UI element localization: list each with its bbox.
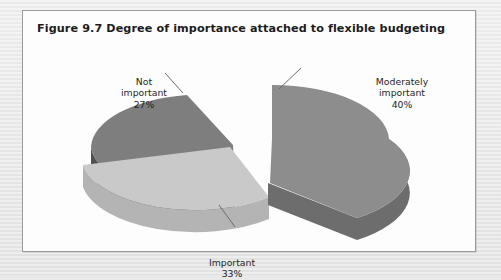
pie-label-not-important-line1: Not (107, 76, 181, 87)
pie-chart: Not important 27% Moderately important 4… (23, 35, 475, 251)
pie-label-moderately-important-line1: Moderately (355, 76, 449, 87)
pie-label-moderately-important-line2: important (355, 87, 449, 98)
pie-label-important-value: 33% (185, 268, 279, 279)
pie-label-not-important: Not important 27% (107, 76, 181, 110)
pie-label-important-line1: Important (185, 257, 279, 268)
pie-label-moderately-important-value: 40% (355, 99, 449, 110)
pie-chart-svg (23, 35, 475, 251)
pie-label-not-important-value: 27% (107, 99, 181, 110)
pie-label-moderately-important: Moderately important 40% (355, 76, 449, 110)
pie-label-not-important-line2: important (107, 87, 181, 98)
figure-panel: Figure 9.7 Degree of importance attached… (22, 10, 476, 252)
pie-label-important: Important 33% (185, 257, 279, 280)
page-title: Figure 9.7 Degree of importance attached… (37, 22, 445, 35)
